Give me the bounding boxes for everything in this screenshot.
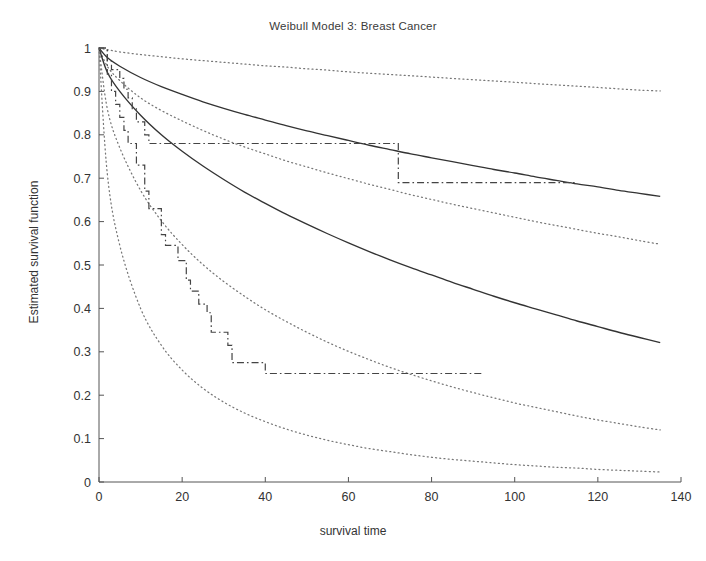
y-tick-label: 0.4 xyxy=(74,302,91,316)
chart-series-line-2 xyxy=(99,48,660,244)
chart-series-line-0 xyxy=(99,48,660,196)
y-tick-label: 0.6 xyxy=(74,215,91,229)
y-tick-label: 0.8 xyxy=(74,128,91,142)
y-tick-label: 0.9 xyxy=(74,85,91,99)
y-tick-label: 0.2 xyxy=(74,389,91,403)
chart-series-line-5 xyxy=(99,48,660,472)
x-tick-label: 60 xyxy=(341,490,355,504)
y-tick-label: 0.1 xyxy=(74,432,91,446)
axis-lines xyxy=(99,48,681,482)
x-tick-label: 20 xyxy=(175,490,189,504)
chart-series-line-4 xyxy=(99,48,660,430)
x-tick-label: 40 xyxy=(258,490,272,504)
x-tick-label: 100 xyxy=(504,490,525,504)
x-tick-label: 120 xyxy=(587,490,608,504)
chart-series-line-1 xyxy=(99,48,660,91)
y-tick-label: 0 xyxy=(84,476,91,490)
y-tick-label: 0.5 xyxy=(74,259,91,273)
y-axis-label: Estimated survival function xyxy=(27,132,41,372)
x-tick-label: 80 xyxy=(425,490,439,504)
chart-plot-area: 02040608010012014000.10.20.30.40.50.60.7… xyxy=(0,0,706,561)
y-tick-label: 0.7 xyxy=(74,172,91,186)
chart-canvas: Weibull Model 3: Breast Cancer 020406080… xyxy=(0,0,706,561)
x-axis-label: survival time xyxy=(0,524,706,538)
y-tick-label: 0.3 xyxy=(74,345,91,359)
x-tick-label: 140 xyxy=(671,490,692,504)
x-tick-label: 0 xyxy=(96,490,103,504)
chart-series-line-3 xyxy=(99,48,660,343)
chart-step-series-1 xyxy=(99,48,481,374)
y-tick-label: 1 xyxy=(84,42,91,56)
